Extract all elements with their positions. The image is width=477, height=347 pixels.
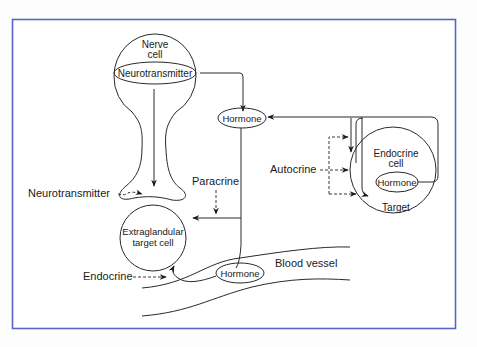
autocrine-label: Autocrine [270,163,316,175]
endocrine-cell-title-2: cell [388,158,403,169]
endocrine-label: Endocrine [83,270,133,282]
signaling-diagram: Nerve cell Neurotransmitter Hormone Endo… [0,0,477,347]
endocrine-hormone-label: Hormone [377,177,416,188]
blood-vessel-label: Blood vessel [275,257,337,269]
neurotransmitter-signal-label: Neurotransmitter [28,187,110,199]
neurotransmitter-label: Neurotransmitter [118,68,193,79]
diagram-frame [13,20,456,329]
target-label: Target [382,202,410,213]
target-cell-line-2: target cell [132,237,173,248]
hormone-vessel-label: Hormone [220,268,259,279]
hormone-top-label: Hormone [222,113,261,124]
nerve-cell-title-2: cell [147,49,162,60]
target-cell-line-1: Extraglandular [122,226,183,237]
paracrine-label: Paracrine [192,175,239,187]
